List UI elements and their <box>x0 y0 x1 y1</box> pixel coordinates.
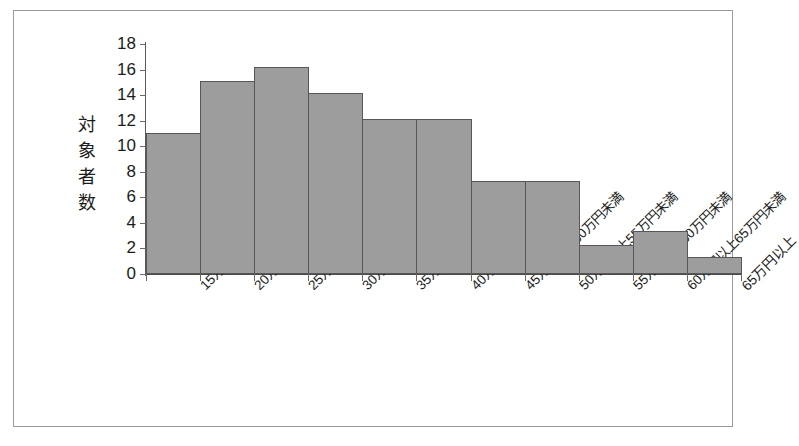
y-axis-tick-label: 12 <box>117 111 136 131</box>
bar <box>254 67 309 274</box>
bar <box>416 119 471 274</box>
y-axis-tick-label: 8 <box>127 162 136 182</box>
bar <box>471 181 526 274</box>
x-axis-tick <box>579 274 580 281</box>
y-axis-tick-label: 2 <box>127 238 136 258</box>
x-axis-tick <box>633 274 634 281</box>
bar <box>362 119 417 274</box>
x-axis-tick <box>362 274 363 281</box>
y-axis-tick-label: 10 <box>117 136 136 156</box>
y-axis-title-char-2: 象 <box>76 138 98 164</box>
bar <box>525 181 580 274</box>
plot-area: 024681012141618 <box>146 44 741 274</box>
bars-layer <box>146 44 741 274</box>
y-axis-title: 対 象 者 数 <box>76 112 98 216</box>
x-axis-tick <box>200 274 201 281</box>
bar <box>633 231 688 274</box>
bar <box>579 245 634 274</box>
chart-frame: 対 象 者 数 024681012141618 15万円以上20万円未満20万円… <box>13 10 733 427</box>
y-axis-title-char-4: 数 <box>76 190 98 216</box>
y-axis-title-char-1: 対 <box>76 112 98 138</box>
bar <box>687 257 742 274</box>
x-axis-category-label: 65万円以上 <box>739 233 799 293</box>
y-axis-tick-label: 0 <box>127 264 136 284</box>
x-axis-tick <box>471 274 472 281</box>
y-axis-tick-label: 6 <box>127 187 136 207</box>
x-axis-tick <box>146 274 147 281</box>
x-axis-tick <box>687 274 688 281</box>
x-axis-tick <box>308 274 309 281</box>
x-axis-tick <box>741 274 742 281</box>
bar <box>146 133 201 274</box>
y-axis-tick-label: 18 <box>117 34 136 54</box>
x-axis-tick <box>525 274 526 281</box>
bar <box>308 93 363 274</box>
x-axis-ticks <box>146 274 741 282</box>
y-axis-tick-label: 16 <box>117 60 136 80</box>
x-axis-tick <box>416 274 417 281</box>
y-axis-tick-label: 14 <box>117 85 136 105</box>
y-axis-title-char-3: 者 <box>76 164 98 190</box>
y-axis-tick-label: 4 <box>127 213 136 233</box>
x-axis-tick <box>254 274 255 281</box>
bar <box>200 81 255 274</box>
